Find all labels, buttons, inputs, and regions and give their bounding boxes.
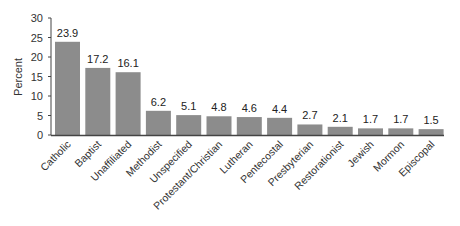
- x-tick-label: Catholic: [38, 138, 73, 173]
- bar-value-label: 23.9: [57, 27, 78, 39]
- bar: [116, 72, 141, 135]
- bar-value-label: 17.2: [87, 53, 108, 65]
- bar-value-label: 16.1: [117, 57, 138, 69]
- bar: [328, 127, 353, 135]
- bar: [358, 128, 383, 135]
- bar: [237, 117, 262, 135]
- bar-value-label: 2.7: [302, 109, 317, 121]
- y-tick-label: 0: [37, 129, 43, 141]
- y-tick-label: 5: [37, 110, 43, 122]
- bar: [419, 129, 444, 135]
- bar-value-label: 1.7: [393, 113, 408, 125]
- bar-value-label: 5.1: [181, 100, 196, 112]
- bar: [297, 124, 322, 135]
- bar-value-label: 4.6: [242, 102, 257, 114]
- y-tick-label: 30: [31, 12, 43, 24]
- y-tick-label: 25: [31, 32, 43, 44]
- bar-value-label: 1.7: [363, 113, 378, 125]
- bars: 23.917.216.16.25.14.84.64.42.72.11.71.71…: [55, 27, 444, 135]
- bar-chart: 051015202530 23.917.216.16.25.14.84.64.4…: [0, 0, 460, 226]
- bar: [146, 111, 171, 135]
- bar-value-label: 1.5: [423, 114, 438, 126]
- bar: [207, 116, 232, 135]
- bar: [388, 128, 413, 135]
- bar: [55, 42, 80, 135]
- y-axis: 051015202530: [31, 12, 51, 141]
- bar: [85, 68, 110, 135]
- y-tick-label: 20: [31, 51, 43, 63]
- bar: [267, 118, 292, 135]
- x-axis: CatholicBaptistUnaffiliatedMethodistUnsp…: [38, 136, 444, 212]
- bar-value-label: 2.1: [333, 112, 348, 124]
- y-tick-label: 15: [31, 71, 43, 83]
- y-axis-label: Percent: [12, 58, 24, 96]
- bar-value-label: 4.8: [211, 101, 226, 113]
- bar: [176, 115, 201, 135]
- bar-value-label: 6.2: [151, 96, 166, 108]
- y-tick-label: 10: [31, 90, 43, 102]
- bar-value-label: 4.4: [272, 103, 287, 115]
